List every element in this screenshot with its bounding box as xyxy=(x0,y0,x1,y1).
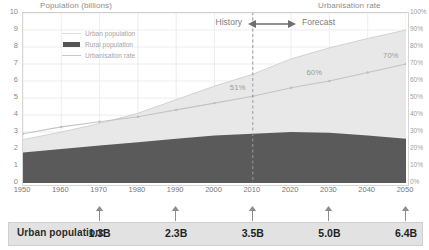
legend-marker-urban-population xyxy=(62,30,81,38)
footer-arrow-1970 xyxy=(94,206,105,221)
y2-tick-80pct: 80% xyxy=(410,43,429,50)
urban-population-value-2050: 6.4B xyxy=(386,227,426,239)
legend-marker-urbanisation-rate xyxy=(62,52,81,60)
y-tick-10: 10 xyxy=(0,8,18,16)
legend-label-rural-population: Rural population xyxy=(85,41,133,48)
x-tick-2040: 2040 xyxy=(350,186,384,194)
urban-population-value-1970: 1.3B xyxy=(80,227,120,239)
x-tick-1990: 1990 xyxy=(158,186,192,194)
y-tick-7: 7 xyxy=(0,59,18,67)
y2-tick-20pct: 20% xyxy=(410,145,429,152)
rate-annotation-60pct: 60% xyxy=(306,68,322,77)
y-tick-9: 9 xyxy=(0,25,18,33)
rate-annotation-70pct: 70% xyxy=(383,51,399,60)
x-tick-1980: 1980 xyxy=(120,186,154,194)
urban-population-value-1990: 2.3B xyxy=(156,227,196,239)
chart-screenshot: Population (billions) Urbanisation rate … xyxy=(0,0,429,250)
y2-tick-90pct: 90% xyxy=(410,26,429,33)
y-tick-2: 2 xyxy=(0,144,18,152)
x-tick-2000: 2000 xyxy=(197,186,231,194)
y2-tick-10pct: 10% xyxy=(410,162,429,169)
x-tick-1950: 1950 xyxy=(5,186,39,194)
y-tick-6: 6 xyxy=(0,76,18,84)
forecast-label: Forecast xyxy=(302,17,335,27)
y2-tick-60pct: 60% xyxy=(410,77,429,84)
y2-tick-50pct: 50% xyxy=(410,94,429,101)
history-forecast-band: History Forecast xyxy=(186,15,366,29)
legend-item-urbanisation-rate: Urbanisation rate xyxy=(62,50,135,61)
legend-item-rural-population: Rural population xyxy=(62,39,135,50)
history-label: History xyxy=(186,17,242,27)
x-tick-2020: 2020 xyxy=(273,186,307,194)
legend-item-urban-population: Urban population xyxy=(62,28,135,39)
y2-axis-title: Urbanisation rate xyxy=(318,1,381,10)
chart-legend: Urban population Rural population Urbani… xyxy=(62,28,135,61)
y-tick-5: 5 xyxy=(0,93,18,101)
urban-population-value-2010: 3.5B xyxy=(233,227,273,239)
rate-annotation-51pct: 51% xyxy=(230,83,246,92)
x-tick-2010: 2010 xyxy=(235,186,269,194)
y-axis-title: Population (billions) xyxy=(40,1,112,10)
double-arrow-icon xyxy=(248,16,296,28)
x-tick-1960: 1960 xyxy=(43,186,77,194)
legend-label-urban-population: Urban population xyxy=(85,30,135,37)
x-tick-2030: 2030 xyxy=(311,186,345,194)
y-tick-4: 4 xyxy=(0,110,18,118)
urban-population-summary-bar: Urban population: 1.3B2.3B3.5B5.0B6.4B xyxy=(8,222,423,246)
y-tick-1: 1 xyxy=(0,161,18,169)
y2-tick-100pct: 100% xyxy=(410,9,429,16)
y-tick-8: 8 xyxy=(0,42,18,50)
x-tick-2050: 2050 xyxy=(388,186,422,194)
footer-arrow-2010 xyxy=(247,206,258,221)
y-tick-3: 3 xyxy=(0,127,18,135)
legend-label-urbanisation-rate: Urbanisation rate xyxy=(85,52,135,59)
legend-marker-rural-population xyxy=(62,41,81,49)
footer-arrow-2050 xyxy=(400,206,411,221)
y2-tick-40pct: 40% xyxy=(410,111,429,118)
footer-arrow-1990 xyxy=(170,206,181,221)
urban-population-value-2030: 5.0B xyxy=(309,227,349,239)
y2-tick-70pct: 70% xyxy=(410,60,429,67)
x-tick-1970: 1970 xyxy=(82,186,116,194)
footer-arrow-2030 xyxy=(323,206,334,221)
y2-tick-30pct: 30% xyxy=(410,128,429,135)
chart-card: Population (billions) Urbanisation rate … xyxy=(0,0,429,206)
